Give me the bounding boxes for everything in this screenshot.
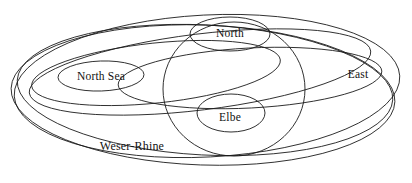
curve-inner-band-left (29, 30, 284, 116)
euler-diagram: North Sea North East Elbe Weser-Rhine (0, 0, 412, 183)
label-north: North (216, 27, 244, 39)
label-north-sea: North Sea (77, 70, 125, 82)
label-east: East (348, 68, 369, 80)
curve-outer-ring-a (11, 5, 404, 167)
euler-diagram-canvas: North Sea North East Elbe Weser-Rhine (0, 0, 412, 183)
label-weser-rhine: Weser-Rhine (100, 139, 164, 153)
curve-east (117, 41, 384, 115)
label-elbe: Elbe (219, 111, 241, 123)
curve-weser-rhine (9, 18, 398, 171)
